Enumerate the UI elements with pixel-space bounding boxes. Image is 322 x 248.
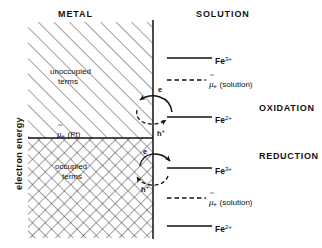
header-metal: METAL [58, 10, 93, 19]
fe2-bottom-charge: 2+ [225, 224, 232, 230]
mu-top-phase: (solution) [220, 80, 253, 89]
fe2-top-charge: 2+ [225, 115, 232, 121]
occupied-terms-label-line1: occupied [55, 163, 87, 171]
fe3-top-species: Fe [215, 56, 225, 66]
fermi-level-label: μe(Pt) [57, 124, 80, 140]
reduction-electron-label: e [143, 148, 147, 156]
y-axis-label: electron energy [14, 117, 24, 190]
mu-bottom-phase: (solution) [220, 198, 253, 207]
fe2-top-species: Fe [215, 115, 225, 125]
level-label-fe3-bottom: Fe3+ [215, 161, 232, 177]
level-label-fe3-top: Fe3+ [215, 51, 232, 67]
fermi-mu-symbol: μ [57, 129, 62, 139]
process-label-reduction: REDUCTION [259, 152, 319, 161]
fe2-bottom-species: Fe [215, 224, 225, 234]
level-label-fe2-top: Fe2+ [215, 110, 232, 126]
process-label-oxidation: OXIDATION [259, 104, 315, 113]
oxidation-hole-charge: + [162, 128, 166, 134]
level-label-mu-top: μe(solution) [209, 74, 253, 90]
oxidation-electron-label: e [158, 86, 162, 94]
level-label-mu-bottom: μe(solution) [209, 192, 253, 208]
reduction-hole-charge: + [146, 184, 150, 190]
occupied-terms-label-line2: terms [62, 173, 82, 181]
unoccupied-terms-label-line2: terms [58, 78, 78, 86]
electrochemistry-energy-diagram: METAL SOLUTION electron energy unoccupie… [0, 0, 322, 248]
fe3-bottom-species: Fe [215, 166, 225, 176]
mu-bottom-symbol: μ [209, 197, 214, 207]
level-label-fe2-bottom: Fe2+ [215, 219, 232, 235]
fe3-top-charge: 3+ [225, 56, 232, 62]
fermi-phase-label: (Pt) [68, 130, 81, 139]
mu-top-symbol: μ [209, 79, 214, 89]
metal-unoccupied-hatch [28, 22, 153, 138]
fe3-bottom-charge: 3+ [225, 166, 232, 172]
reduction-hole-label: h+ [141, 179, 149, 195]
unoccupied-terms-label-line1: unoccupied [50, 68, 91, 76]
metal-occupied-hatch [28, 138, 153, 238]
oxidation-hole-label: h+ [157, 123, 165, 139]
header-solution: SOLUTION [196, 10, 250, 19]
